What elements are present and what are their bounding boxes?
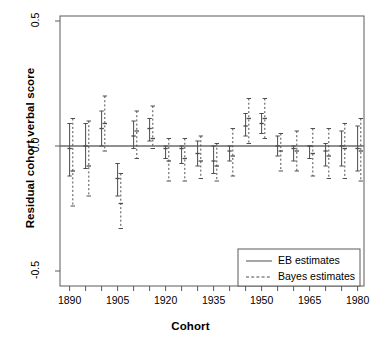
- series-bayes: [71, 96, 363, 229]
- x-tick-label: 1890: [50, 294, 90, 306]
- y-axis-title: Residual cohort verbal score: [24, 48, 36, 248]
- series-eb: [67, 111, 359, 196]
- x-axis-title: Cohort: [0, 320, 381, 332]
- x-tick-label: 1950: [242, 294, 282, 306]
- x-tick-label: 1965: [290, 294, 330, 306]
- x-tick-label: 1905: [98, 294, 138, 306]
- x-tick-label: 1980: [338, 294, 378, 306]
- y-tick-label: -0.5: [29, 250, 41, 290]
- chart-figure: 18901905192019351950196519800.50.0-0.5EB…: [0, 0, 381, 345]
- x-tick-label: 1920: [146, 294, 186, 306]
- y-tick-label: 0.5: [29, 0, 41, 40]
- legend-label: Bayes estimates: [278, 270, 355, 282]
- x-tick-label: 1935: [194, 294, 234, 306]
- data-series-group: [67, 96, 363, 229]
- legend-label: EB estimates: [278, 254, 340, 266]
